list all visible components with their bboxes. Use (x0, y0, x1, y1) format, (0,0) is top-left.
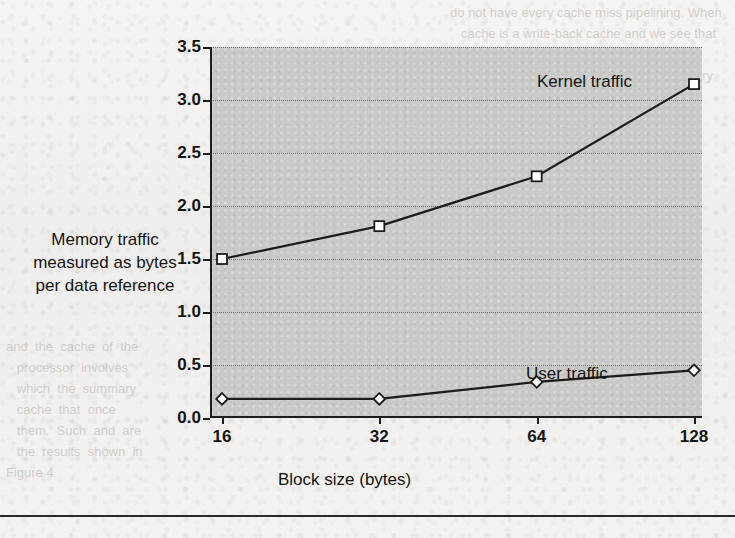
x-tick-16 (222, 418, 224, 424)
y-tick-label-0.5: 0.5 (177, 355, 210, 375)
x-tick-label-128: 128 (680, 427, 708, 447)
y-axis-title-line-2: measured as bytes (16, 251, 194, 274)
page-horizontal-rule (0, 515, 735, 517)
series-line-kernel-traffic (222, 84, 694, 259)
x-tick-64 (537, 418, 539, 424)
x-tick-label-16: 16 (213, 427, 232, 447)
y-tick-label-3.5: 3.5 (177, 37, 210, 57)
series-line-user-traffic (222, 370, 694, 399)
memory-traffic-line-chart: Memory traffic measured as bytes per dat… (0, 0, 735, 500)
y-axis-title-line-3: per data reference (16, 274, 194, 297)
x-tick-32 (379, 418, 381, 424)
y-tick-label-2.5: 2.5 (177, 143, 210, 163)
y-axis-title: Memory traffic measured as bytes per dat… (16, 228, 194, 297)
x-tick-label-32: 32 (370, 427, 389, 447)
x-tick-label-64: 64 (527, 427, 546, 447)
y-tick-label-3.0: 3.0 (177, 90, 210, 110)
data-point-kernel-traffic-64 (532, 171, 542, 181)
data-point-kernel-traffic-128 (689, 79, 699, 89)
y-axis-title-line-1: Memory traffic (16, 228, 194, 251)
series-plot (210, 47, 702, 418)
x-tick-128 (694, 418, 696, 424)
data-point-user-traffic-128 (688, 365, 700, 377)
data-point-user-traffic-32 (374, 393, 386, 405)
series-label-user: User traffic (526, 364, 608, 384)
data-point-kernel-traffic-16 (217, 254, 227, 264)
y-tick-label-1.5: 1.5 (177, 249, 210, 269)
data-point-kernel-traffic-32 (374, 221, 384, 231)
data-point-user-traffic-16 (216, 393, 228, 405)
y-tick-label-0.0: 0.0 (177, 408, 210, 428)
y-tick-label-2.0: 2.0 (177, 196, 210, 216)
y-tick-label-1.0: 1.0 (177, 302, 210, 322)
plot-frame: 0.00.51.01.52.02.53.03.5 163264128 Kerne… (210, 47, 702, 418)
series-label-kernel: Kernel traffic (537, 72, 632, 92)
x-axis-title: Block size (bytes) (278, 470, 411, 490)
